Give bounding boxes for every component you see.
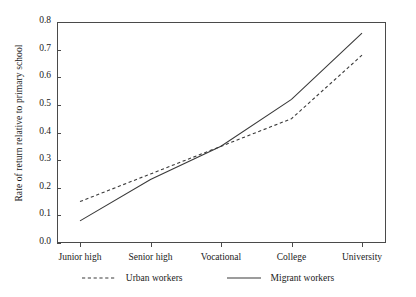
legend-label-migrant-workers: Migrant workers: [271, 273, 335, 283]
chart-legend: Urban workers Migrant workers: [0, 273, 416, 283]
legend-item-migrant-workers: Migrant workers: [227, 273, 335, 283]
legend-label-urban-workers: Urban workers: [126, 273, 183, 283]
line-urban-workers: [80, 55, 362, 201]
series-lines: [0, 0, 416, 297]
chart-figure: Rate of return relative to primary schoo…: [0, 0, 416, 297]
line-migrant-workers: [80, 33, 362, 221]
legend-item-urban-workers: Urban workers: [82, 273, 183, 283]
legend-swatch-solid-icon: [227, 274, 261, 282]
legend-swatch-dashed-icon: [82, 274, 116, 282]
